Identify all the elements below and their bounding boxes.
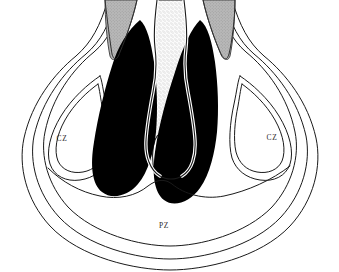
- central-zone-right-label: CZ: [267, 133, 278, 142]
- central-zone-right-outline: [230, 76, 292, 180]
- transition-zone-left-mass: [92, 20, 157, 196]
- central-zone-left-label: CZ: [57, 134, 68, 143]
- prostate-cross-section-svg: CZ CZ PZ: [0, 0, 339, 272]
- peripheral-zone-label: PZ: [159, 221, 169, 230]
- central-zone-right-inner-line: [235, 84, 284, 173]
- anatomical-diagram: CZ CZ PZ: [0, 0, 339, 272]
